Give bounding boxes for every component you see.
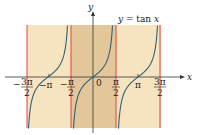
tick-label-pi-2-num: π xyxy=(113,77,119,87)
y-axis-label: y xyxy=(87,2,94,12)
function-label: y = tan x xyxy=(117,14,159,24)
tick-label-neg-pi-2-num: π xyxy=(68,77,74,87)
x-axis-label: x xyxy=(187,72,192,82)
tick-label-3pi-2-den: 2 xyxy=(157,88,163,98)
tick-label-pi-2-den: 2 xyxy=(113,88,119,98)
tick-label-pi: π xyxy=(135,80,141,90)
tick-label-neg-3pi-2-num: 3π xyxy=(21,77,33,87)
tick-label-neg-3pi-2-den: 2 xyxy=(24,88,30,98)
tan-graph: y x y = tan x 0 − 3π 2 −π − π 2 π 2 π 3π… xyxy=(0,0,198,135)
x-axis-arrow-icon xyxy=(180,75,185,79)
tick-label-neg-3pi-2-sign: − xyxy=(13,79,21,89)
tick-label-zero: 0 xyxy=(96,78,102,88)
tick-label-3pi-2-num: 3π xyxy=(154,77,166,87)
tick-label-neg-pi-2-sign: − xyxy=(60,79,68,89)
tick-label-neg-pi: −π xyxy=(39,80,53,90)
tick-label-neg-pi-2-den: 2 xyxy=(68,88,74,98)
